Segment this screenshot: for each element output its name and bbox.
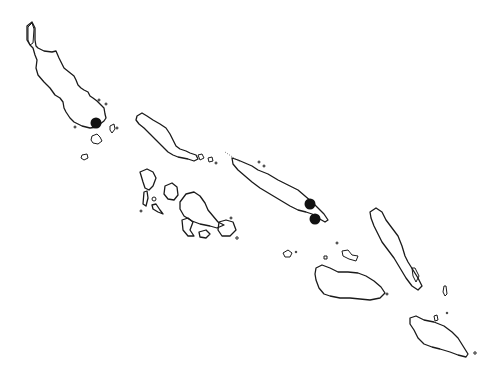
location-marker[interactable] bbox=[310, 214, 321, 225]
island-small-central bbox=[283, 242, 358, 261]
island-santa-isabel bbox=[225, 152, 328, 222]
island-makira bbox=[410, 312, 476, 357]
island-malaita bbox=[370, 208, 447, 296]
solomon-islands-map bbox=[0, 0, 497, 375]
location-marker[interactable] bbox=[91, 118, 102, 129]
location-markers bbox=[91, 118, 321, 225]
island-guadalcanal bbox=[315, 265, 388, 300]
island-choiseul bbox=[136, 113, 217, 164]
location-marker[interactable] bbox=[305, 199, 316, 210]
island-new-georgia-group bbox=[140, 169, 238, 239]
island-bougainville bbox=[27, 22, 118, 160]
